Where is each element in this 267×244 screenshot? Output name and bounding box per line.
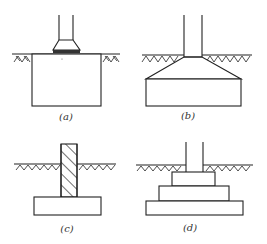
figure-d <box>136 142 253 215</box>
figure-c <box>14 144 116 215</box>
figure-b <box>142 15 252 106</box>
label-b: (b) <box>181 110 195 121</box>
label-c: (c) <box>60 223 74 234</box>
ground-hatch-icon <box>137 166 250 171</box>
label-a: (a) <box>59 111 73 122</box>
foundation-diagram: (a) (b) (c) <box>0 0 267 244</box>
label-d: (d) <box>183 222 197 233</box>
figure-a <box>12 15 120 106</box>
